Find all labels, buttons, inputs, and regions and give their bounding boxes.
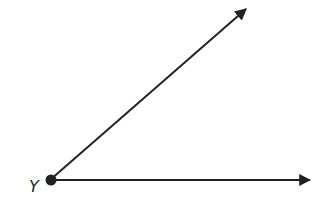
- vertex-label: Y: [29, 177, 39, 196]
- angle-diagram: [0, 0, 320, 204]
- vertex-point: [46, 175, 57, 186]
- upper-ray: [50, 9, 246, 180]
